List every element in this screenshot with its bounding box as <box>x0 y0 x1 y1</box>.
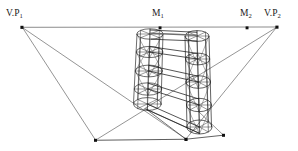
beam-l2-upper <box>150 47 198 54</box>
beam-top-front <box>150 33 197 35</box>
label-vanishing-point-2: V.P2 <box>264 8 281 18</box>
label-vp2-subscript: 2 <box>278 12 281 19</box>
point-m1[interactable] <box>159 26 162 29</box>
label-m2-subscript: 2 <box>249 12 252 19</box>
label-m1-text: M <box>152 8 161 18</box>
figure-canvas: Perspective construction diagram with va… <box>0 0 298 151</box>
label-vp1-subscript: 1 <box>20 12 23 19</box>
tower-left-column <box>134 29 164 111</box>
point-ground-right <box>222 134 225 137</box>
beam-l3-front <box>149 71 199 82</box>
label-measuring-point-1: M1 <box>152 8 164 18</box>
ray-vp1-to-left-base <box>23 28 96 140</box>
perspective-diagram: Perspective construction diagram with va… <box>0 0 298 151</box>
ground-line-left <box>96 139 187 140</box>
label-m2-text: M <box>240 8 249 18</box>
label-vanishing-point-1: V.P1 <box>6 8 23 18</box>
label-vp2-text: V.P <box>264 8 278 18</box>
ground-diagonal-left <box>96 109 147 140</box>
ground-line-right <box>186 135 224 139</box>
right-column-edge-back <box>209 36 212 127</box>
beam-base-front <box>147 104 199 127</box>
point-m2[interactable] <box>246 26 249 29</box>
tower-right-column <box>185 31 212 134</box>
point-vp1[interactable] <box>20 26 23 29</box>
point-vp2[interactable] <box>275 26 278 29</box>
label-measuring-point-2: M2 <box>240 8 252 18</box>
label-m1-subscript: 1 <box>161 12 164 19</box>
point-ground-left <box>94 139 97 142</box>
point-ground-mid <box>184 138 187 141</box>
right-column-verticals <box>189 31 209 134</box>
label-vp1-text: V.P <box>6 8 20 18</box>
